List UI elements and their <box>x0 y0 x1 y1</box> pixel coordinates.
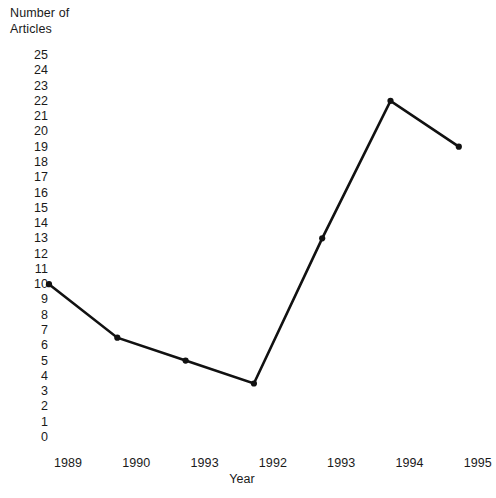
x-tick-label: 1993 <box>175 456 235 470</box>
x-tick-label: 1989 <box>38 456 98 470</box>
x-tick-label: 1990 <box>106 456 166 470</box>
x-tick-label: 1994 <box>380 456 440 470</box>
x-axis-title: Year <box>0 472 484 486</box>
x-tick-label: 1993 <box>311 456 371 470</box>
x-tick-label: 1992 <box>243 456 303 470</box>
x-tick-label: 1995 <box>448 456 496 470</box>
